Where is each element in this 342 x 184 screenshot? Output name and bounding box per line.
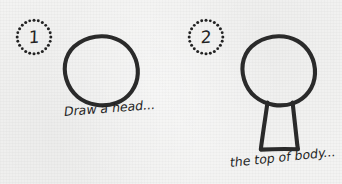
hand-drawn-head-and-trapezoid-body-icon [236,32,336,164]
step-badge-2: 2 [186,17,226,57]
drawing-tutorial-sheet: 1 Draw a head... [0,0,342,184]
step-badge-1-number: 1 [13,16,54,58]
tutorial-step-panel-2: 2 the top of body... [174,0,342,184]
step-badge-1: 1 [14,17,54,57]
tutorial-step-panel-1: 1 Draw a head... [0,0,174,184]
step-badge-2-number: 2 [185,16,226,58]
